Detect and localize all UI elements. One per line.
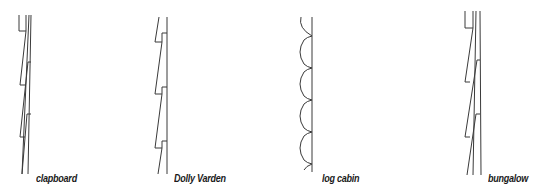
log-cabin-drawing [280, 0, 420, 193]
label-dolly-varden: Dolly Varden [174, 172, 226, 184]
label-bungalow: bungalow [488, 172, 528, 184]
bungalow-drawing [420, 0, 540, 193]
profile-bungalow: bungalow [420, 0, 540, 193]
dolly-varden-drawing [140, 0, 280, 193]
clapboard-drawing [0, 0, 140, 193]
profile-clapboard: clapboard [0, 0, 140, 193]
profile-dolly-varden: Dolly Varden [140, 0, 280, 193]
label-clapboard: clapboard [36, 172, 77, 184]
profile-log-cabin: log cabin [280, 0, 420, 193]
label-log-cabin: log cabin [322, 172, 359, 184]
